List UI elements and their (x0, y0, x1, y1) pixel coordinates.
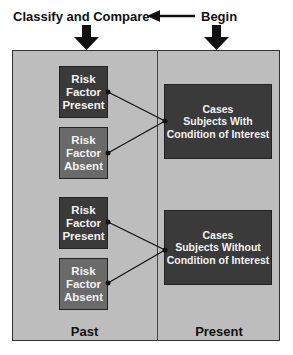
past-column-label: Past (12, 324, 157, 339)
present-column-label: Present (158, 324, 280, 339)
connector-lines (0, 0, 293, 355)
